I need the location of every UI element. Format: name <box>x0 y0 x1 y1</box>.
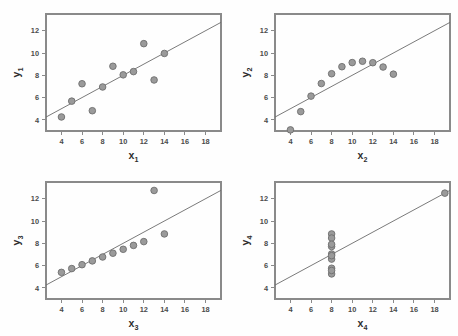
data-point <box>89 258 96 265</box>
data-points-1 <box>58 40 168 120</box>
data-point <box>110 250 117 257</box>
plot-frame-4 <box>275 182 450 299</box>
y-tick-label-3-10: 10 <box>31 217 39 226</box>
x-tick-label-2-4: 4 <box>288 137 293 146</box>
x-tick-label-4-12: 12 <box>369 305 377 314</box>
data-point <box>161 231 168 238</box>
y-tick-label-1-4: 4 <box>35 116 40 125</box>
y-tick-label-4-12: 12 <box>260 194 268 203</box>
data-point <box>99 254 106 261</box>
x-tick-label-4-8: 8 <box>330 305 334 314</box>
x-tick-label-3-4: 4 <box>59 305 64 314</box>
x-tick-label-4-14: 14 <box>389 305 398 314</box>
x-tick-label-2-16: 16 <box>410 137 418 146</box>
y-tick-label-1-8: 8 <box>35 71 39 80</box>
y-tick-label-3-4: 4 <box>35 284 40 293</box>
x-tick-label-1-14: 14 <box>160 137 169 146</box>
data-point <box>79 80 86 87</box>
y-axis-title-3: y3 <box>10 236 25 246</box>
y-tick-label-2-10: 10 <box>260 49 268 58</box>
data-point <box>151 77 158 84</box>
y-axis-title-2: y2 <box>239 68 254 78</box>
anscombe-quartet-figure: 46810124681012141618x1y1 468101246810121… <box>0 0 458 336</box>
x-tick-label-4-16: 16 <box>410 305 418 314</box>
data-point <box>339 63 346 70</box>
data-point <box>79 261 86 268</box>
data-point <box>328 235 335 242</box>
data-point <box>120 246 127 253</box>
y-tick-label-2-4: 4 <box>264 116 269 125</box>
panel-2: 46810124681012141618x2y2 <box>229 0 458 168</box>
data-point <box>380 64 387 71</box>
x-tick-label-3-6: 6 <box>80 305 84 314</box>
x-tick-label-1-18: 18 <box>201 137 209 146</box>
x-tick-label-1-8: 8 <box>101 137 105 146</box>
data-point <box>328 267 335 274</box>
x-tick-label-3-10: 10 <box>119 305 127 314</box>
data-points-2 <box>287 58 397 133</box>
x-tick-label-2-6: 6 <box>309 137 313 146</box>
x-tick-label-1-6: 6 <box>80 137 84 146</box>
x-tick-label-1-4: 4 <box>59 137 64 146</box>
x-tick-label-4-10: 10 <box>348 305 356 314</box>
data-point <box>58 114 65 121</box>
x-axis-title-1: x1 <box>129 149 139 164</box>
data-point <box>130 242 137 249</box>
x-axis-title-4: x4 <box>358 317 368 332</box>
x-tick-label-3-8: 8 <box>101 305 105 314</box>
y-tick-label-4-8: 8 <box>264 239 268 248</box>
x-axis-title-2: x2 <box>358 149 368 164</box>
x-tick-label-2-14: 14 <box>389 137 398 146</box>
x-tick-label-1-10: 10 <box>119 137 127 146</box>
y-axis-title-1: y1 <box>10 68 25 78</box>
data-points-3 <box>58 187 168 276</box>
x-tick-label-4-6: 6 <box>309 305 313 314</box>
data-point <box>328 70 335 77</box>
x-tick-label-4-18: 18 <box>430 305 438 314</box>
data-point <box>68 265 75 272</box>
y-tick-label-3-6: 6 <box>35 261 39 270</box>
data-point <box>390 71 397 78</box>
data-point <box>369 59 376 66</box>
data-point <box>58 269 65 276</box>
y-tick-label-2-12: 12 <box>260 26 268 35</box>
plot-3: 46810124681012141618x3y3 <box>0 168 229 336</box>
panel-3: 46810124681012141618x3y3 <box>0 168 229 336</box>
x-tick-label-3-18: 18 <box>201 305 209 314</box>
data-point <box>349 59 356 66</box>
y-tick-label-1-12: 12 <box>31 26 39 35</box>
data-point <box>287 127 294 134</box>
data-point <box>89 107 96 114</box>
data-point <box>442 190 449 197</box>
data-point <box>68 98 75 105</box>
data-point <box>99 84 106 91</box>
x-tick-label-2-8: 8 <box>330 137 334 146</box>
panel-1: 46810124681012141618x1y1 <box>0 0 229 168</box>
data-point <box>328 252 335 259</box>
plot-4: 46810124681012141618x4y4 <box>229 168 458 336</box>
regression-line-4 <box>275 190 450 285</box>
x-tick-label-2-12: 12 <box>369 137 377 146</box>
data-point <box>130 68 137 75</box>
data-point <box>110 63 117 70</box>
data-point <box>120 72 127 79</box>
data-point <box>359 58 366 65</box>
data-point <box>140 238 147 245</box>
data-point <box>318 80 325 87</box>
y-tick-label-4-6: 6 <box>264 261 268 270</box>
panel-4: 46810124681012141618x4y4 <box>229 168 458 336</box>
plot-2: 46810124681012141618x2y2 <box>229 0 458 168</box>
x-tick-label-2-10: 10 <box>348 137 356 146</box>
y-tick-label-1-10: 10 <box>31 49 39 58</box>
y-tick-label-3-12: 12 <box>31 194 39 203</box>
plot-1: 46810124681012141618x1y1 <box>0 0 229 168</box>
x-tick-label-3-16: 16 <box>181 305 189 314</box>
y-tick-label-2-6: 6 <box>264 93 268 102</box>
y-tick-label-3-8: 8 <box>35 239 39 248</box>
data-point <box>308 93 315 100</box>
x-tick-label-1-16: 16 <box>181 137 189 146</box>
plot-frame-3 <box>46 182 221 299</box>
y-tick-label-4-10: 10 <box>260 217 268 226</box>
data-point <box>140 40 147 47</box>
x-tick-label-1-12: 12 <box>140 137 148 146</box>
